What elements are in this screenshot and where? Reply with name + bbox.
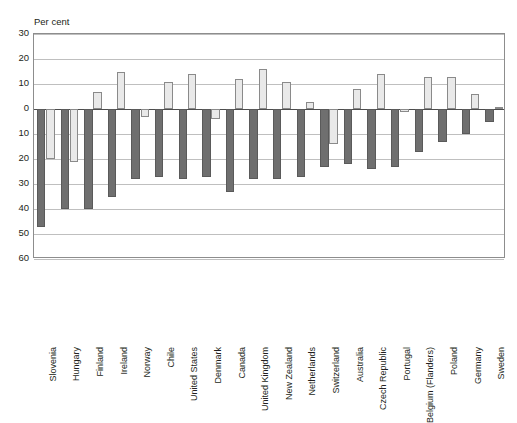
- gridline: [34, 234, 504, 235]
- x-axis-label-hungary: Hungary: [72, 347, 81, 381]
- bar-light-series-denmark: [211, 109, 220, 119]
- x-axis-label-new-zealand: New Zealand: [285, 347, 294, 400]
- gridline: [34, 134, 504, 135]
- x-axis-label-united-kingdom: United Kingdom: [261, 347, 270, 411]
- plot-area: [33, 33, 505, 258]
- bar-dark-series-germany: [462, 109, 471, 134]
- x-axis-label-chile: Chile: [167, 347, 176, 368]
- x-axis-label-slovenia: Slovenia: [49, 347, 58, 382]
- bar-dark-series-belgium-flanders: [415, 109, 424, 152]
- bar-dark-series-united-states: [179, 109, 188, 179]
- x-axis-label-portugal: Portugal: [403, 347, 412, 381]
- x-axis-labels: SloveniaHungaryFinlandIrelandNorwayChile…: [33, 259, 505, 350]
- gridline: [34, 59, 504, 60]
- bar-dark-series-new-zealand: [273, 109, 282, 179]
- bar-dark-series-australia: [344, 109, 353, 164]
- y-axis-tick-label: 30: [5, 178, 29, 188]
- y-axis-tick-label: 0: [5, 103, 29, 113]
- x-axis-label-netherlands: Netherlands: [308, 347, 317, 396]
- gridline: [34, 34, 504, 35]
- x-axis-label-finland: Finland: [96, 347, 105, 377]
- bar-light-series-united-states: [188, 74, 197, 109]
- x-axis-label-norway: Norway: [143, 347, 152, 378]
- bar-light-series-czech-republic: [377, 74, 386, 109]
- bar-light-series-netherlands: [306, 102, 315, 110]
- bar-light-series-germany: [471, 94, 480, 109]
- x-axis-label-sweden: Sweden: [497, 347, 506, 380]
- y-axis-tick-label: 60: [5, 253, 29, 263]
- bar-light-series-new-zealand: [282, 82, 291, 110]
- bar-light-series-switzerland: [329, 109, 338, 144]
- bar-light-series-chile: [164, 82, 173, 110]
- bar-dark-series-denmark: [202, 109, 211, 177]
- x-axis-label-poland: Poland: [450, 347, 459, 375]
- bar-dark-series-chile: [155, 109, 164, 177]
- gridline: [34, 209, 504, 210]
- y-axis-tick-label: 30: [5, 28, 29, 38]
- bar-dark-series-canada: [226, 109, 235, 192]
- y-axis-tick-label: 20: [5, 153, 29, 163]
- bar-dark-series-switzerland: [320, 109, 329, 167]
- bar-light-series-hungary: [70, 109, 79, 162]
- y-axis-tick-label: 40: [5, 203, 29, 213]
- x-axis-label-united-states: United States: [190, 347, 199, 401]
- y-axis-tick-label: 10: [5, 128, 29, 138]
- bar-light-series-belgium-flanders: [424, 77, 433, 110]
- bar-light-series-australia: [353, 89, 362, 109]
- x-axis-label-australia: Australia: [356, 347, 365, 382]
- y-axis-tick-label: 10: [5, 78, 29, 88]
- x-axis-label-czech-republic: Czech Republic: [379, 347, 388, 410]
- x-axis-label-germany: Germany: [474, 347, 483, 384]
- y-axis-tick-label: 50: [5, 228, 29, 238]
- zero-line: [34, 109, 504, 110]
- gridline: [34, 184, 504, 185]
- gridline: [34, 159, 504, 160]
- x-axis-label-canada: Canada: [238, 347, 247, 379]
- bar-light-series-norway: [141, 109, 150, 117]
- bar-light-series-ireland: [117, 72, 126, 110]
- x-axis-label-belgium-flanders: Belgium (Flanders): [426, 347, 435, 423]
- bar-dark-series-netherlands: [297, 109, 306, 177]
- bars-group: [34, 34, 504, 257]
- bar-dark-series-united-kingdom: [249, 109, 258, 179]
- bar-dark-series-norway: [131, 109, 140, 179]
- x-axis-label-switzerland: Switzerland: [332, 347, 341, 394]
- y-axis-unit-label: Per cent: [34, 16, 69, 27]
- bar-light-series-united-kingdom: [259, 69, 268, 109]
- bar-dark-series-czech-republic: [367, 109, 376, 169]
- bar-light-series-finland: [93, 92, 102, 110]
- gridline: [34, 84, 504, 85]
- x-axis-label-denmark: Denmark: [214, 347, 223, 384]
- bar-dark-series-sweden: [485, 109, 494, 122]
- y-axis-tick-label: 20: [5, 53, 29, 63]
- bar-dark-series-poland: [438, 109, 447, 142]
- bar-light-series-poland: [447, 77, 456, 110]
- x-axis-label-ireland: Ireland: [120, 347, 129, 375]
- bar-dark-series-portugal: [391, 109, 400, 167]
